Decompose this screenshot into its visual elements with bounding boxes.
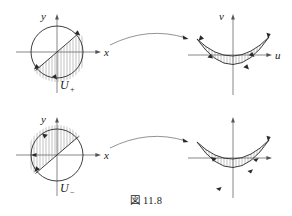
- axis-label-x-bottom-left: x: [103, 149, 109, 161]
- panel-top-right: v u: [188, 10, 281, 100]
- v-axis-top-right: [231, 14, 235, 95]
- v-axis-bottom-right: [231, 117, 235, 198]
- arrowhead-tr-3: [243, 64, 249, 69]
- axis-label-x-top-left: x: [103, 46, 109, 58]
- map-arrow-bottom: [110, 136, 189, 148]
- hatch-top-left: [34, 20, 82, 86]
- panel-top-left: y x U +: [16, 10, 109, 94]
- arrowhead-chord-bottom-left: [35, 166, 41, 172]
- axis-label-y-bottom-left: y: [40, 113, 46, 125]
- axis-label-u-top-right: u: [275, 49, 281, 61]
- arrowhead-br-3: [248, 169, 254, 173]
- arrowhead-br-4: [216, 187, 222, 191]
- arrowhead-circle-top-left: [52, 74, 57, 80]
- axis-label-y-top-left: y: [40, 10, 46, 22]
- axis-label-v-top-right: v: [219, 10, 224, 22]
- figure-caption: 図 11.8: [0, 192, 292, 207]
- arrowhead-tr-2: [249, 52, 255, 57]
- hatch-bottom-left: [31, 123, 79, 189]
- figure-page: y x U +: [0, 0, 292, 216]
- panel-bottom-left: y x U −: [16, 113, 109, 197]
- panel-bottom-right: [188, 117, 272, 203]
- set-subscript-plus: +: [70, 85, 75, 94]
- set-label-u-plus: U: [60, 78, 70, 92]
- map-arrow-top: [110, 33, 189, 45]
- arrowhead-tr-4: [199, 35, 205, 41]
- figure-canvas: y x U +: [0, 0, 292, 216]
- arrowhead-circle2-bottom-left: [31, 153, 37, 157]
